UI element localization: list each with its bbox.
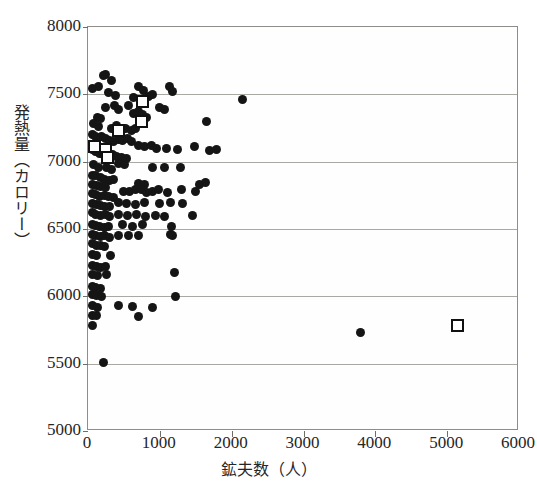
x-axis-title: 鉱夫数（人） [0, 456, 537, 480]
x-tick-label-0: 0 [52, 434, 122, 451]
x-tick-label-2000: 2000 [196, 434, 266, 451]
x-axis-tick-group: 0100020003000400050006000 [0, 0, 537, 481]
x-tick-label-3000: 3000 [268, 434, 338, 451]
x-tick-label-5000: 5000 [411, 434, 481, 451]
x-tick-label-6000: 6000 [483, 434, 537, 451]
scatter-chart-figure: 発熱量（カロリー） 5000550060006500700075008000 0… [0, 0, 537, 481]
x-tick-label-4000: 4000 [339, 434, 409, 451]
x-tick-label-1000: 1000 [124, 434, 194, 451]
